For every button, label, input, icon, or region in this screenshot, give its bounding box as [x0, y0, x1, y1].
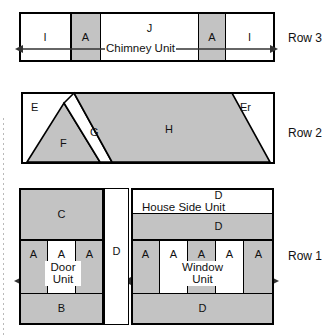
- row1-piece-c: C: [19, 188, 104, 240]
- patch-label: D: [215, 221, 223, 232]
- row-label-1: Row 1: [288, 249, 322, 263]
- row1-window-cell-a-1: A: [131, 240, 160, 294]
- patch-label: A: [142, 249, 149, 260]
- row1-window-cell-a-5: A: [243, 240, 274, 294]
- row1-window-unit-label: Window Unit: [173, 261, 232, 286]
- row2-label-er: Er: [240, 102, 251, 114]
- row-label-2: Row 2: [288, 126, 322, 140]
- row1-right-bottom-piece-d: D: [131, 293, 274, 325]
- row1-house-side-band-bottom: D: [131, 213, 274, 240]
- diagram-canvas: I A J A I: [0, 0, 336, 336]
- row1-center-strip-d: D: [104, 188, 129, 325]
- row2-label-h: H: [165, 124, 173, 136]
- patch-label: A: [198, 249, 205, 260]
- row2-label-g: G: [90, 127, 99, 139]
- patch-label: A: [30, 249, 37, 260]
- row1-window-unit-label-line2: Unit: [174, 273, 231, 285]
- patch-label: D: [215, 190, 223, 201]
- row1-house-side-unit-label: House Side Unit: [141, 201, 226, 213]
- patch-label: D: [113, 246, 121, 257]
- row1-door-unit-label-line2: Unit: [46, 273, 80, 285]
- patch-label: A: [86, 249, 93, 260]
- row1-door-unit-label-line1: Door: [46, 261, 80, 273]
- row2-label-f: F: [60, 138, 67, 150]
- row1-door-cell-a-1: A: [19, 240, 48, 294]
- patch-label: A: [255, 249, 262, 260]
- row1-piece-b: B: [19, 293, 104, 325]
- patch-label: B: [58, 303, 65, 314]
- row2-label-e: E: [31, 102, 38, 114]
- patch-label: A: [58, 249, 65, 260]
- patch-label: C: [58, 209, 66, 220]
- row1-window-unit-label-line1: Window: [174, 261, 231, 273]
- row1-door-unit-label: Door Unit: [45, 261, 81, 286]
- patch-label: A: [226, 249, 233, 260]
- patch-label: A: [170, 249, 177, 260]
- patch-label: D: [199, 303, 207, 314]
